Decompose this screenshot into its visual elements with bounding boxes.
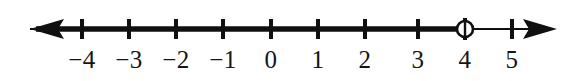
tick-label-minus-1: −1 — [209, 47, 237, 72]
tick-label-minus-3: −3 — [115, 47, 143, 72]
tick-label-1: 1 — [312, 47, 325, 72]
tick-label-3: 3 — [412, 47, 425, 72]
tick-label-minus-2: −2 — [162, 47, 190, 72]
tick-label-5: 5 — [506, 47, 519, 72]
tick-label-4: 4 — [459, 47, 472, 72]
tick-label-2: 2 — [359, 47, 372, 72]
tick-label-0: 0 — [265, 47, 278, 72]
number-line-figure: −4 −3 −2 −1 0 1 2 3 4 5 — [0, 0, 582, 81]
tick-label-minus-4: −4 — [68, 47, 96, 72]
